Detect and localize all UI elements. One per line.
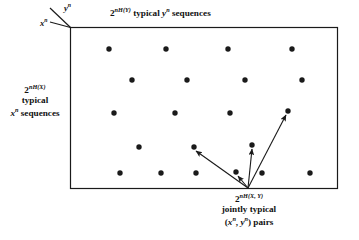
axis-label-x: xn [40,17,48,28]
bottom-caption: 2nH(X, Y) jointly typical (xn, yn) pairs [185,192,313,227]
arrow-group [196,115,286,188]
typical-set-rectangle [71,28,338,189]
sequence-pair-dot [227,110,232,115]
sequence-pair-dot [172,110,177,115]
sequence-pair-dot [163,46,168,51]
sequence-pair-dot [289,46,294,51]
axis-label-y: yn [64,2,71,13]
top-caption: 2nH(Y) typical yn sequences [110,6,211,18]
sequence-pair-dot [225,46,230,51]
sequence-pair-dot [117,170,122,175]
sequence-pair-dot [299,77,304,82]
sequence-pair-dot [285,108,290,113]
sequence-pair-dot [259,170,264,175]
sequence-pair-dot [106,46,111,51]
sequence-pair-dot [242,77,247,82]
sequence-pair-dot [307,170,312,175]
sequence-pair-dot [184,77,189,82]
sequence-pair-dot [158,170,163,175]
sequence-pair-dot [129,77,134,82]
sequence-pair-dot [193,170,198,175]
left-caption: 2nH(X) typical xn sequences [2,83,68,118]
joint-typicality-figure: yn xn 2nH(Y) typical yn sequences 2nH(X)… [0,0,359,240]
sequence-pair-dot [249,142,254,147]
sequence-pair-dot [233,169,238,174]
sequence-pair-dot [111,110,116,115]
annotation-arrow [248,115,286,188]
sequence-pair-dot [191,144,196,149]
annotation-arrow [196,151,248,188]
dot-group [106,46,312,175]
sequence-pair-dot [136,144,141,149]
